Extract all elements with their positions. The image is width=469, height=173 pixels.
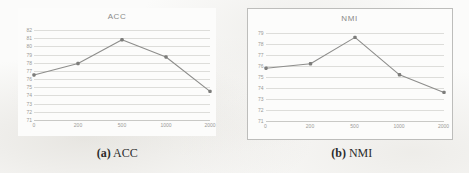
data-point-marker xyxy=(264,67,267,70)
nmi-plot-area: 797877767574737271020050010002000 xyxy=(248,9,452,139)
data-line xyxy=(34,40,210,92)
acc-plot-area: 828180797877767574737271020050010002000 xyxy=(18,8,216,136)
data-point-marker xyxy=(353,36,356,39)
nmi-caption-tag: (b) xyxy=(331,146,346,160)
acc-line-series xyxy=(18,8,216,136)
acc-caption: (a) ACC xyxy=(0,146,235,161)
data-point-marker xyxy=(76,62,79,65)
data-point-marker xyxy=(120,38,123,41)
figure-container: ACC 828180797877767574737271020050010002… xyxy=(0,0,469,173)
nmi-line-series xyxy=(248,9,452,139)
data-point-marker xyxy=(32,73,35,76)
data-point-marker xyxy=(397,73,400,76)
figure-panel-acc: ACC 828180797877767574737271020050010002… xyxy=(0,0,235,173)
acc-caption-tag: (a) xyxy=(97,146,111,160)
nmi-chart: NMI 797877767574737271020050010002000 xyxy=(247,8,453,140)
data-point-marker xyxy=(308,62,311,65)
figure-panel-nmi: NMI 797877767574737271020050010002000 (b… xyxy=(235,0,469,173)
data-line xyxy=(266,37,444,92)
data-point-marker xyxy=(164,55,167,58)
acc-chart: ACC 828180797877767574737271020050010002… xyxy=(18,8,216,136)
acc-caption-text: ACC xyxy=(113,146,138,160)
nmi-caption-text: NMI xyxy=(349,146,372,160)
nmi-caption: (b) NMI xyxy=(235,146,469,161)
data-point-marker xyxy=(442,91,445,94)
data-point-marker xyxy=(208,90,211,93)
